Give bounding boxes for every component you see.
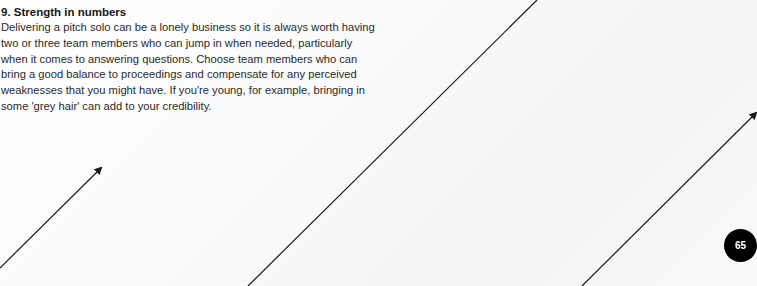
arrow-left-icon	[0, 168, 101, 268]
arrow-right-icon	[582, 113, 756, 286]
decorative-arrows	[0, 0, 757, 286]
page-number-badge: 65	[724, 229, 757, 262]
diagonal-line-icon	[248, 0, 537, 286]
